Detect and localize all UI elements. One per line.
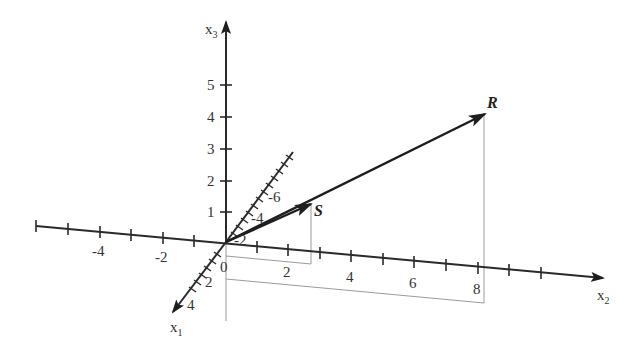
projection-lines — [226, 114, 484, 321]
vector-r — [226, 114, 485, 242]
x2-tick-label: 8 — [473, 281, 481, 297]
x3-axis-label: x3 — [205, 21, 218, 40]
x2-tick-label: 2 — [283, 264, 291, 280]
x2-tick-label: 4 — [346, 269, 354, 285]
x2-tick-label: -2 — [155, 249, 168, 265]
vector-diagram: -4 -2 0 2 4 6 8 1 2 3 4 5 -6 -4 -2 2 4 x… — [0, 0, 640, 351]
x1-tick-label: 4 — [187, 297, 195, 313]
x1-tick-label: -6 — [268, 189, 281, 205]
x1-tick-label: 2 — [205, 274, 213, 290]
vector-s-label: S — [314, 202, 323, 219]
x2-tick-label: -4 — [92, 243, 105, 259]
x1-tick-label: -4 — [251, 210, 264, 226]
x2-tick-label: 6 — [409, 275, 417, 291]
x3-tick-label: 2 — [207, 173, 215, 189]
x1-tick-label: -2 — [234, 232, 247, 248]
x3-tick-label: 3 — [207, 141, 215, 157]
x1-axis-label: x1 — [170, 319, 183, 338]
x3-tick-label: 4 — [207, 109, 215, 125]
x3-tick-label: 1 — [207, 204, 215, 220]
x2-tick-label: 0 — [220, 259, 228, 275]
r-floor-projection — [226, 279, 484, 303]
s-floor-projection — [226, 256, 311, 264]
x2-axis-label: x2 — [597, 287, 610, 306]
vector-r-label: R — [486, 94, 498, 111]
x3-tick-label: 5 — [207, 77, 215, 93]
